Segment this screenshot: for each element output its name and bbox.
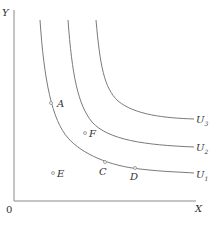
point-a-marker [50, 102, 53, 105]
y-axis-label: Y [2, 7, 10, 18]
x-axis-label: X [194, 203, 203, 214]
curve-u2-label: U2 [196, 142, 208, 155]
point-f-label: F [88, 128, 97, 139]
point-a-label: A [56, 98, 64, 109]
indifference-curve-diagram: Y X 0 U3 U2 U1 A C D F E [0, 0, 212, 229]
curve-u1 [40, 20, 194, 173]
curve-u2 [68, 20, 194, 147]
curve-u3 [96, 20, 194, 119]
point-f-marker [84, 132, 87, 135]
point-c-marker [104, 161, 107, 164]
origin-label: 0 [6, 204, 12, 215]
point-d-label: D [129, 171, 138, 182]
point-d-marker [134, 167, 137, 170]
point-c-label: C [99, 166, 107, 177]
point-e-marker [52, 172, 55, 175]
curve-u3-label: U3 [196, 114, 208, 127]
curve-u1-label: U1 [196, 169, 208, 182]
point-e-label: E [56, 168, 65, 179]
